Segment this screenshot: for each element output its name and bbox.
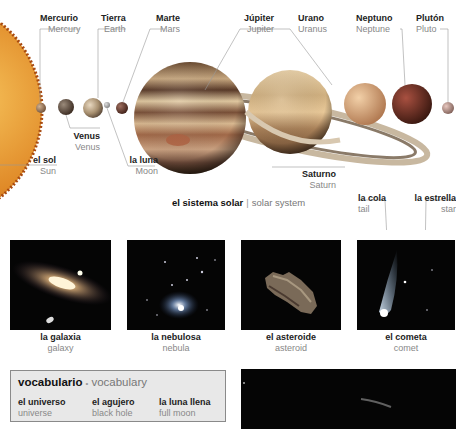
label-moon: la luna Moon	[120, 155, 158, 177]
label-es: Tierra	[101, 13, 126, 24]
label-es: la estrella	[400, 193, 456, 204]
vocab-word-en: full moon	[159, 408, 196, 418]
vocabulary-box: vocabulario•vocabulary el universo unive…	[10, 370, 226, 422]
label-es: la cola	[358, 193, 386, 204]
vocabulary-title-es: vocabulario	[18, 376, 83, 388]
vocabulary-title: vocabulario•vocabulary	[18, 376, 147, 388]
label-en: star	[400, 204, 456, 215]
label-neptune: Neptuno Neptune	[356, 13, 393, 35]
mercury-illustration	[36, 103, 46, 113]
label-es: Júpiter	[232, 13, 274, 24]
vocab-word-en: black hole	[92, 408, 133, 418]
label-es: Urano	[298, 13, 327, 24]
caption-en: comet	[357, 343, 455, 354]
label-mercury: Mercurio Mercury	[40, 13, 81, 35]
sun-illustration	[0, 0, 42, 222]
label-en: Jupiter	[232, 24, 274, 35]
label-es: Mercurio	[40, 13, 81, 24]
caption-en: asteroid	[241, 343, 341, 354]
caption-asteroid: el asteroide asteroid	[241, 332, 341, 354]
earth-illustration	[83, 98, 103, 118]
label-es: Marte	[140, 13, 180, 24]
label-en: Mars	[140, 24, 180, 35]
nebula-photo	[127, 240, 225, 330]
label-star: la estrella star	[400, 193, 456, 215]
label-earth: Tierra Earth	[101, 13, 126, 35]
label-en: Earth	[101, 24, 126, 35]
label-en: Saturn	[296, 180, 336, 191]
galaxy-photo	[10, 240, 111, 330]
caption-galaxy: la galaxia galaxy	[10, 332, 111, 354]
pluto-illustration	[442, 102, 454, 114]
caption-en: solar system	[252, 197, 305, 208]
vocab-word-es: la luna llena	[159, 397, 211, 407]
label-es: Neptuno	[356, 13, 393, 24]
caption-es: la nebulosa	[127, 332, 225, 343]
space-photo-bottom	[241, 369, 456, 429]
label-en: Mercury	[40, 24, 81, 35]
mars-illustration	[116, 102, 128, 114]
vocabulary-title-en: vocabulary	[91, 376, 147, 388]
caption-en: galaxy	[10, 343, 111, 354]
caption-en: nebula	[127, 343, 225, 354]
label-pluto: Plutón Pluto	[416, 13, 444, 35]
vocab-word-es: el agujero	[92, 397, 135, 407]
label-en: Pluto	[416, 24, 444, 35]
label-en: tail	[358, 204, 386, 215]
comet-photo	[357, 240, 455, 330]
label-en: Moon	[120, 166, 158, 177]
caption-es: la galaxia	[10, 332, 111, 343]
neptune-illustration	[392, 84, 432, 124]
label-es: la luna	[120, 155, 158, 166]
label-es: Venus	[66, 131, 100, 142]
caption-es: el cometa	[357, 332, 455, 343]
label-es: Plutón	[416, 13, 444, 24]
label-sun: el sol Sun	[20, 155, 56, 177]
saturn-illustration	[246, 70, 340, 154]
caption-comet: el cometa comet	[357, 332, 455, 354]
uranus-illustration	[344, 83, 386, 125]
label-tail: la cola tail	[358, 193, 386, 215]
label-es: el sol	[20, 155, 56, 166]
vocab-word-en: universe	[18, 408, 52, 418]
label-es: Saturno	[296, 169, 336, 180]
bullet-icon: •	[86, 379, 89, 388]
label-uranus: Urano Uranus	[298, 13, 327, 35]
caption-nebula: la nebulosa nebula	[127, 332, 225, 354]
label-en: Neptune	[356, 24, 393, 35]
vocab-word-es: el universo	[18, 397, 66, 407]
label-jupiter: Júpiter Jupiter	[232, 13, 274, 35]
label-saturn: Saturno Saturn	[296, 169, 336, 191]
solar-system-caption: el sistema solar|solar system	[172, 197, 305, 208]
label-en: Uranus	[298, 24, 327, 35]
label-venus: Venus Venus	[66, 131, 100, 153]
moon-illustration	[104, 102, 110, 108]
caption-es: el sistema solar	[172, 197, 243, 208]
venus-illustration	[58, 99, 74, 115]
caption-es: el asteroide	[241, 332, 341, 343]
label-en: Sun	[20, 166, 56, 177]
caption-separator: |	[246, 197, 248, 208]
label-en: Venus	[66, 142, 100, 153]
label-mars: Marte Mars	[140, 13, 180, 35]
asteroid-photo	[241, 240, 341, 330]
